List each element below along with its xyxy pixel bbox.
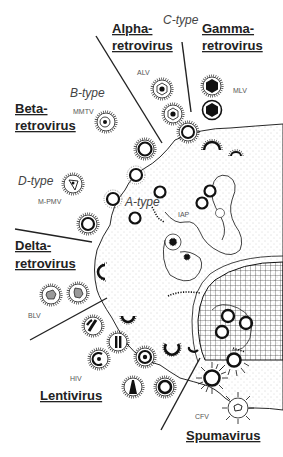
virus-abbr-hiv: HIV xyxy=(70,375,82,382)
genus-label-beta-line1: Beta- xyxy=(15,101,48,116)
virion-spuma-intracellular-1 xyxy=(222,310,234,322)
virion-alv-2 xyxy=(163,104,184,125)
virion-a-type-intracellular-2 xyxy=(130,213,141,224)
virion-alv-1 xyxy=(152,79,173,100)
virion-cfv-2 xyxy=(222,392,254,424)
genus-label-lentivirus: Lentivirus xyxy=(40,388,102,403)
virion-a-type-intracellular-1 xyxy=(155,187,166,198)
virion-hiv-1 xyxy=(83,316,104,337)
genus-label-delta-line1: Delta- xyxy=(15,238,51,253)
virion-iap-1 xyxy=(205,186,216,197)
virus-abbr-mpmv: M-PMV xyxy=(38,198,62,205)
genus-label-gamma-line1: Gamma- xyxy=(202,21,254,36)
particle-type-c: C-type xyxy=(163,13,199,27)
inclusion-body-2 xyxy=(184,254,190,260)
virion-mmtv xyxy=(96,112,117,133)
genus-label-gamma-line2: retrovirus xyxy=(202,38,263,53)
virion-mlv-1 xyxy=(202,76,223,97)
virion-mpmv xyxy=(63,174,84,195)
retrovirus-diagram: Alpha- retrovirus Gamma- retrovirus Beta… xyxy=(0,0,283,457)
virion-b-type-budding xyxy=(135,139,156,160)
virus-abbr-mlv: MLV xyxy=(233,87,247,94)
virion-hiv-5 xyxy=(123,377,144,398)
particle-type-d: D-type xyxy=(18,174,54,188)
virion-hiv-3 xyxy=(89,349,110,370)
virion-spuma-intracellular-2 xyxy=(240,317,252,329)
virus-abbr-iap: IAP xyxy=(178,211,190,218)
virus-abbr-blv: BLV xyxy=(28,312,41,319)
inclusion-body-1 xyxy=(165,234,181,250)
particle-type-b: B-type xyxy=(70,86,105,100)
divider-alpha-gamma xyxy=(182,42,191,112)
virion-spuma-intracellular-3 xyxy=(216,326,228,338)
virion-iap-2 xyxy=(197,198,208,209)
genus-label-spumavirus: Spumavirus xyxy=(186,428,260,443)
genus-label-beta-line2: retrovirus xyxy=(15,118,76,133)
virus-abbr-cfv: CFV xyxy=(195,413,209,420)
genus-label-alpha-line2: retrovirus xyxy=(112,38,173,53)
particle-type-a: A-type xyxy=(124,195,160,209)
virion-blv-1 xyxy=(41,285,62,306)
genus-label-alpha-line1: Alpha- xyxy=(112,21,152,36)
virion-a-type-budding-2 xyxy=(104,190,122,208)
virion-hiv-2 xyxy=(108,332,129,353)
virion-mlv-2 xyxy=(203,101,222,120)
virus-abbr-alv: ALV xyxy=(137,69,150,76)
virion-hiv-6 xyxy=(155,377,176,398)
virus-abbr-mmtv: MMTV xyxy=(73,108,94,115)
virion-a-type-budding-3 xyxy=(78,214,99,235)
virion-iap-3 xyxy=(216,209,225,218)
genus-label-delta-line2: retrovirus xyxy=(15,256,76,271)
virion-blv-2 xyxy=(68,283,89,304)
